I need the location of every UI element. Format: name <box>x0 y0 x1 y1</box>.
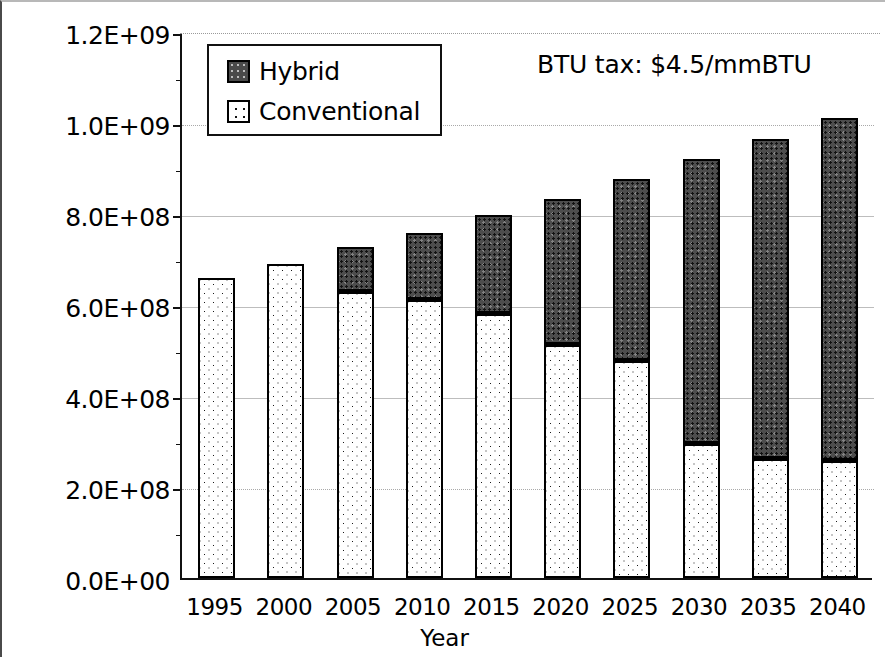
bar-2040 <box>821 118 858 578</box>
hybrid-swatch-icon <box>227 60 250 83</box>
y-tick-label: 0.0E+00 <box>10 567 170 596</box>
y-axis-minor-tick <box>176 353 182 354</box>
bar-segment-conventional <box>198 278 235 578</box>
x-tick-label: 2000 <box>244 594 324 620</box>
y-tick-label: 6.0E+08 <box>10 294 170 323</box>
y-axis-tick <box>173 307 182 309</box>
x-tick-label: 2020 <box>521 594 601 620</box>
y-axis-tick <box>173 125 182 127</box>
bar-segment-conventional <box>613 361 650 578</box>
x-tick-label: 2005 <box>313 594 393 620</box>
legend-item-conventional: Conventional <box>227 96 420 126</box>
bar-segment-conventional <box>752 459 789 578</box>
bar-2015 <box>475 215 512 578</box>
bar-2030 <box>683 159 720 578</box>
x-tick-label: 2030 <box>659 594 739 620</box>
bar-segment-hybrid <box>683 159 720 444</box>
bar-1995 <box>198 278 235 578</box>
legend-label: Hybrid <box>259 57 340 86</box>
legend-label: Conventional <box>259 97 420 126</box>
bar-segment-hybrid <box>544 199 581 345</box>
y-axis-minor-tick <box>176 262 182 263</box>
bar-2010 <box>406 233 443 578</box>
y-tick-label: 2.0E+08 <box>10 476 170 505</box>
y-tick-label: 8.0E+08 <box>10 203 170 232</box>
bar-segment-hybrid <box>752 139 789 459</box>
x-tick-label: 2035 <box>728 594 808 620</box>
bar-segment-conventional <box>406 300 443 578</box>
bar-2025 <box>613 179 650 578</box>
x-tick-label: 2040 <box>797 594 877 620</box>
bar-segment-conventional <box>475 314 512 578</box>
bar-2020 <box>544 199 581 578</box>
y-axis-tick <box>173 489 182 491</box>
conventional-swatch-icon <box>227 100 250 123</box>
y-axis-tick <box>173 398 182 400</box>
chart-figure: 1.2E+09 1.0E+09 8.0E+08 6.0E+08 4.0E+08 … <box>0 0 885 657</box>
y-tick-label: 4.0E+08 <box>10 385 170 414</box>
bar-2000 <box>267 264 304 578</box>
bar-2035 <box>752 139 789 578</box>
bar-2005 <box>337 247 374 578</box>
y-axis-labels: 1.2E+09 1.0E+09 8.0E+08 6.0E+08 4.0E+08 … <box>2 2 170 657</box>
bar-segment-conventional <box>267 264 304 578</box>
bar-segment-conventional <box>544 345 581 578</box>
x-axis-title: Year <box>2 625 885 651</box>
bar-segment-hybrid <box>406 233 443 300</box>
y-tick-label: 1.0E+09 <box>10 112 170 141</box>
y-tick-label: 1.2E+09 <box>10 21 170 50</box>
x-tick-label: 2025 <box>590 594 670 620</box>
y-axis-minor-tick <box>176 80 182 81</box>
y-axis-minor-tick <box>176 444 182 445</box>
legend-item-hybrid: Hybrid <box>227 56 340 86</box>
bar-segment-hybrid <box>337 247 374 293</box>
y-axis-tick <box>173 34 182 36</box>
y-axis-tick <box>173 216 182 218</box>
y-axis-minor-tick <box>176 171 182 172</box>
bar-segment-hybrid <box>821 118 858 461</box>
bar-segment-conventional <box>337 292 374 578</box>
y-axis-minor-tick <box>176 535 182 536</box>
legend: Hybrid Conventional <box>207 44 442 136</box>
x-tick-label: 2010 <box>382 594 462 620</box>
bar-segment-hybrid <box>613 179 650 361</box>
x-tick-label: 2015 <box>451 594 531 620</box>
x-tick-label: 1995 <box>175 594 255 620</box>
bar-segment-hybrid <box>475 215 512 314</box>
bar-segment-conventional <box>821 461 858 578</box>
btu-tax-annotation: BTU tax: $4.5/mmBTU <box>537 50 812 79</box>
bar-segment-conventional <box>683 444 720 578</box>
